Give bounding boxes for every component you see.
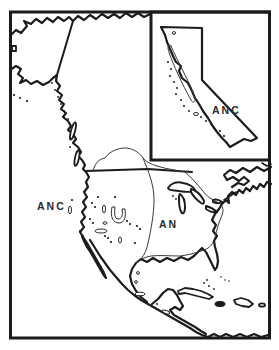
panhandle-island-dot [51, 82, 53, 84]
patch-dot [200, 116, 202, 118]
an-range-west-limit [141, 158, 154, 259]
alaska-border-line [57, 21, 73, 75]
arctic-island [12, 46, 16, 51]
aleutian-island-dot [19, 97, 21, 99]
mexico-central-america-coastline [90, 240, 268, 337]
label-anc-west: ANC [37, 200, 66, 212]
bahamas-dot [206, 279, 208, 281]
coastal-island-dot [69, 146, 71, 148]
small-lake-dot [172, 195, 174, 197]
patch-dot [114, 196, 116, 198]
bahamas-dot [208, 285, 210, 287]
patch [119, 237, 122, 243]
patch-dot [175, 93, 177, 95]
st-lawrence-coastline [224, 167, 271, 187]
mexico-anc-patches [135, 272, 171, 315]
patch [135, 292, 145, 296]
patch [69, 206, 72, 214]
lake-huron [191, 189, 204, 204]
patch [103, 222, 107, 225]
horseshoe-patch [111, 207, 125, 223]
patch [95, 229, 107, 233]
patch [135, 281, 138, 284]
patch-dot [97, 196, 99, 198]
panhandle-island-dot [60, 103, 62, 105]
florida-keys-dot [228, 280, 230, 282]
patch-dot [219, 130, 221, 132]
patch-dot [169, 75, 171, 77]
florida-keys-dot [220, 276, 222, 278]
lake-erie [206, 206, 217, 212]
patch [173, 32, 176, 35]
small-lake-dot [178, 196, 180, 198]
patch [103, 205, 106, 213]
patch-dot [82, 235, 84, 237]
patch [137, 272, 140, 275]
patch-dot [223, 135, 225, 137]
coastal-island-dot [67, 118, 69, 120]
patch-dot [210, 123, 212, 125]
bahamas-dot [203, 282, 205, 284]
patch-dot [188, 110, 190, 112]
patch-dot [107, 237, 109, 239]
patch-dot [92, 222, 94, 224]
inset-frame [151, 12, 270, 160]
patch-dot [110, 241, 112, 243]
panhandle-island-dot [57, 96, 59, 98]
patch-dot [205, 120, 207, 122]
patch-dot [79, 230, 81, 232]
panhandle-island-dot [63, 110, 65, 112]
florida-keys-dot [224, 279, 226, 281]
patch-dot [136, 225, 138, 227]
california-inset: ANC [151, 12, 270, 160]
jamaica [215, 302, 225, 307]
western-anc-patches [69, 196, 142, 244]
patch-dot [139, 228, 141, 230]
aleutian-island-dot [26, 100, 28, 102]
patch-dot [180, 99, 182, 101]
small-lake-dot [175, 198, 177, 200]
patch [194, 113, 199, 116]
distribution-map-figure: ANC AN ANC [0, 0, 279, 350]
patch-dot [183, 105, 185, 107]
patch-dot [71, 199, 73, 201]
patch-dot [156, 303, 158, 305]
patch-dot [89, 218, 91, 220]
arctic-coastline [10, 13, 155, 36]
patch-dot [170, 68, 172, 70]
patch-dot [173, 81, 175, 83]
puerto-rico [259, 303, 265, 306]
patch-dot [167, 61, 169, 63]
lake-michigan [179, 194, 185, 213]
patch-dot [129, 223, 131, 225]
coastal-island [73, 150, 80, 166]
hispaniola [234, 298, 253, 307]
patch-dot [126, 220, 128, 222]
label-anc-inset: ANC [212, 104, 241, 116]
an-range-boundary [93, 148, 223, 263]
patch-dot [91, 202, 93, 204]
patch-dot [94, 206, 96, 208]
north-america-map: ANC AN ANC [0, 0, 279, 350]
label-an-east: AN [159, 218, 178, 230]
aleutian-island-dot [13, 94, 15, 96]
cuba [178, 288, 213, 299]
patch-dot [104, 235, 106, 237]
an-range-outline [93, 148, 223, 263]
patch-dot [176, 87, 178, 89]
patch-dot [134, 242, 136, 244]
bahamas-dot [213, 288, 215, 290]
great-lakes [168, 182, 222, 213]
panhandle-island-dot [54, 89, 56, 91]
